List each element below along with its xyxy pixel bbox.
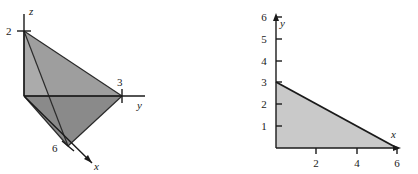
y-tick-label-3: 3 bbox=[261, 76, 267, 88]
y-axis-label: y bbox=[279, 17, 285, 29]
y-tick-label-6: 6 bbox=[261, 11, 267, 23]
y-axis-label: y bbox=[136, 99, 142, 111]
panel-triangle-2d: y 6 5 4 3 2 1 x bbox=[209, 0, 418, 174]
y-tick-label-5: 5 bbox=[261, 33, 267, 45]
y-tick-label-2: 2 bbox=[261, 98, 267, 110]
y-tick-label-4: 4 bbox=[261, 55, 267, 67]
math-figure-pair: z 2 y 3 x 6 y bbox=[0, 0, 418, 174]
face-lower-dark bbox=[24, 96, 122, 146]
triangle-svg: y 6 5 4 3 2 1 x bbox=[209, 0, 418, 174]
z-axis-label: z bbox=[28, 5, 34, 17]
tetrahedron-svg: z 2 y 3 x 6 bbox=[0, 0, 209, 174]
x-axis-tick-labels: 2 4 6 bbox=[313, 157, 400, 169]
y-tick-label-1: 1 bbox=[261, 120, 267, 132]
x-tick-label-6: 6 bbox=[394, 157, 400, 169]
panel-tetrahedron-3d: z 2 y 3 x 6 bbox=[0, 0, 209, 174]
y-intercept-label: 3 bbox=[117, 76, 123, 88]
x-axis-label: x bbox=[93, 160, 99, 172]
x-tick-label-4: 4 bbox=[354, 157, 360, 169]
y-axis-tick-labels: 6 5 4 3 2 1 bbox=[261, 11, 267, 132]
x-axis-label: x bbox=[390, 128, 396, 140]
x-tick-label-2: 2 bbox=[313, 157, 319, 169]
x-axis-ticks bbox=[316, 148, 397, 154]
z-intercept-label: 2 bbox=[6, 25, 12, 37]
x-intercept-label: 6 bbox=[52, 142, 58, 154]
